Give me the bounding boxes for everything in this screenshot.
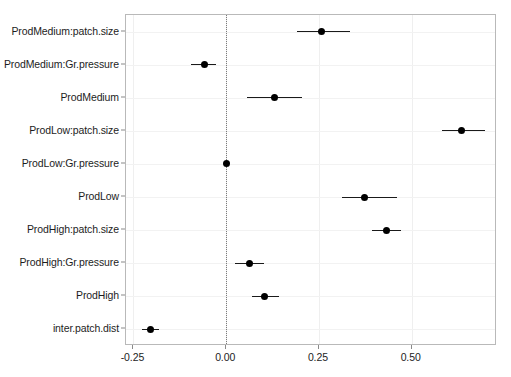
x-axis-tick-label: 0.00 <box>215 351 235 363</box>
y-axis-tick-label: ProdMedium <box>60 91 119 103</box>
estimate-point <box>271 94 278 101</box>
gridline-horizontal <box>126 197 495 198</box>
gridline-horizontal <box>126 65 495 66</box>
plot-panel <box>125 14 496 345</box>
estimate-point <box>246 260 253 267</box>
x-axis-tick-label: 0.25 <box>308 351 328 363</box>
gridline-horizontal <box>126 329 495 330</box>
y-axis-tick-label: ProdLow:Gr.pressure <box>22 157 119 169</box>
gridline-horizontal <box>126 263 495 264</box>
gridline-horizontal <box>126 131 495 132</box>
estimate-point <box>383 227 390 234</box>
x-axis-tick-mark <box>411 345 412 349</box>
y-axis-tick-label: ProdLow:patch.size <box>29 124 119 136</box>
estimate-point <box>223 160 230 167</box>
gridline-horizontal <box>126 296 495 297</box>
estimate-point <box>318 28 325 35</box>
estimate-point <box>361 194 368 201</box>
estimate-point <box>201 61 208 68</box>
y-axis-tick-label: ProdHigh <box>76 289 119 301</box>
coefficient-forest-plot: ProdMedium:patch.sizeProdMedium:Gr.press… <box>0 0 511 377</box>
x-axis-tick-mark <box>132 345 133 349</box>
estimate-point <box>261 293 268 300</box>
y-axis-tick-label: ProdMedium:Gr.pressure <box>4 58 119 70</box>
y-axis-tick-label: ProdMedium:patch.size <box>11 25 119 37</box>
x-axis-tick-mark <box>225 345 226 349</box>
confidence-interval-bar <box>342 197 397 198</box>
y-axis-tick-label: ProdHigh:patch.size <box>27 223 119 235</box>
gridline-horizontal <box>126 164 495 165</box>
estimate-point <box>147 326 154 333</box>
x-axis-tick-label: -0.25 <box>121 351 144 363</box>
zero-reference-line <box>226 15 227 344</box>
y-axis-tick-label: ProdHigh:Gr.pressure <box>19 256 119 268</box>
y-axis-tick-label: ProdLow <box>78 190 119 202</box>
gridline-horizontal <box>126 98 495 99</box>
gridline-horizontal <box>126 230 495 231</box>
y-axis-tick-label: inter.patch.dist <box>53 322 119 334</box>
x-axis-tick-label: 0.50 <box>401 351 421 363</box>
estimate-point <box>458 127 465 134</box>
x-axis-tick-mark <box>318 345 319 349</box>
